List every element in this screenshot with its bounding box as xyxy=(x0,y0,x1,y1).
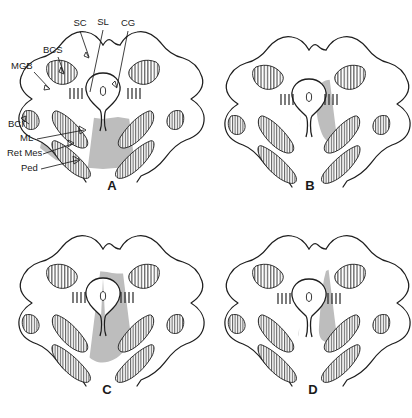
label-cg: CG xyxy=(121,17,135,28)
label-bcs: BCS xyxy=(43,44,63,55)
panel-a: SC SL CG BCS MGB BCI ML Ret Mes Ped A xyxy=(0,0,206,209)
panel-b-svg: B xyxy=(206,0,412,209)
panel-letter-d: D xyxy=(308,382,317,397)
panel-d: D xyxy=(206,209,412,418)
label-bci: BCI xyxy=(8,118,24,129)
label-ml: ML xyxy=(20,132,33,143)
midbrain-figure: SC SL CG BCS MGB BCI ML Ret Mes Ped A xyxy=(0,0,412,418)
panel-letter-c: C xyxy=(102,382,112,397)
label-sl: SL xyxy=(97,16,109,27)
panel-a-svg: SC SL CG BCS MGB BCI ML Ret Mes Ped A xyxy=(0,0,206,209)
panel-b: B xyxy=(206,0,412,209)
label-mgb: MGB xyxy=(11,60,33,71)
label-ped: Ped xyxy=(21,162,38,173)
panel-c-svg: C xyxy=(0,209,206,418)
label-sc: SC xyxy=(73,17,86,28)
panel-d-svg: D xyxy=(206,209,412,418)
label-ret-mes: Ret Mes xyxy=(7,147,43,158)
panel-c: C xyxy=(0,209,206,418)
panel-letter-a: A xyxy=(107,178,117,193)
panel-letter-b: B xyxy=(305,178,314,193)
